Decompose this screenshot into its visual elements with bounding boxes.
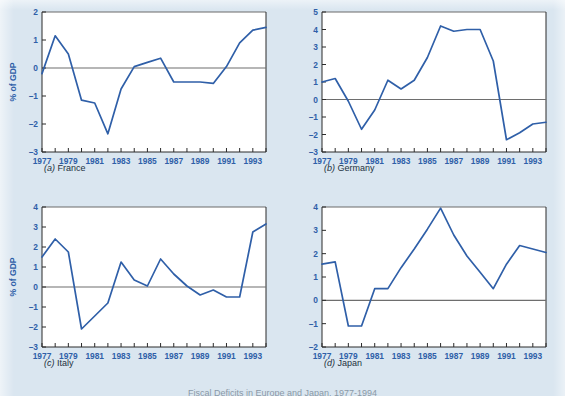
svg-text:% of GDP: % of GDP [8,257,18,296]
panel-caption-japan: (d) Japan [324,358,362,368]
chart-panel-japan: –2–1012341977197919811983198519871989199… [296,199,554,374]
panel-name-germany: Germany [338,163,375,173]
svg-text:–2: –2 [29,119,39,129]
svg-text:0: 0 [33,63,38,73]
svg-text:5: 5 [313,7,318,17]
svg-text:1987: 1987 [444,156,463,166]
svg-text:1991: 1991 [497,351,516,361]
svg-text:4: 4 [33,202,38,212]
chart-panel-france: –3–2–10121977197919811983198519871989199… [6,4,274,179]
svg-text:1981: 1981 [365,351,384,361]
svg-text:1981: 1981 [85,156,104,166]
svg-text:1989: 1989 [191,351,210,361]
svg-text:1993: 1993 [524,351,543,361]
svg-text:3: 3 [33,222,38,232]
panel-name-france: France [58,163,86,173]
svg-text:2: 2 [33,242,38,252]
svg-text:1983: 1983 [112,351,131,361]
chart-panel-germany: –3–2–10123451977197919811983198519871989… [296,4,554,179]
svg-text:1991: 1991 [217,351,236,361]
figure-caption: Fiscal Deficits in Europe and Japan, 197… [0,388,565,396]
svg-text:1985: 1985 [138,156,157,166]
svg-text:1991: 1991 [497,156,516,166]
svg-text:0: 0 [313,295,318,305]
line-chart-italy: –3–2–10123419771979198119831985198719891… [6,199,274,374]
panel-caption-france: (a) France [44,163,86,173]
svg-text:–1: –1 [29,91,39,101]
svg-text:2: 2 [313,60,318,70]
svg-text:–1: –1 [309,112,319,122]
svg-text:% of GDP: % of GDP [8,62,18,101]
svg-text:1983: 1983 [392,156,411,166]
svg-text:1: 1 [313,77,318,87]
svg-text:1987: 1987 [164,156,183,166]
svg-text:1993: 1993 [244,156,263,166]
panel-letter-japan: (d) [324,358,335,368]
svg-text:1983: 1983 [112,156,131,166]
svg-text:1991: 1991 [217,156,236,166]
svg-text:4: 4 [313,202,318,212]
svg-text:1: 1 [313,272,318,282]
svg-text:3: 3 [313,225,318,235]
svg-text:1993: 1993 [244,351,263,361]
panel-letter-italy: (c) [44,358,55,368]
svg-text:2: 2 [33,7,38,17]
figure-panel-group: –3–2–10121977197919811983198519871989199… [0,0,565,396]
svg-text:1981: 1981 [85,351,104,361]
svg-text:0: 0 [313,95,318,105]
svg-text:1985: 1985 [138,351,157,361]
panel-letter-france: (a) [44,163,55,173]
svg-text:–2: –2 [309,130,319,140]
svg-text:1989: 1989 [471,351,490,361]
svg-text:1985: 1985 [418,156,437,166]
svg-text:1989: 1989 [191,156,210,166]
line-chart-japan: –2–1012341977197919811983198519871989199… [296,199,554,374]
svg-text:–1: –1 [309,319,319,329]
svg-text:–2: –2 [29,322,39,332]
panel-caption-italy: (c) Italy [44,358,74,368]
svg-text:1993: 1993 [524,156,543,166]
svg-text:3: 3 [313,42,318,52]
svg-text:1: 1 [33,262,38,272]
svg-text:1989: 1989 [471,156,490,166]
svg-text:1987: 1987 [444,351,463,361]
svg-text:1: 1 [33,35,38,45]
line-chart-france: –3–2–10121977197919811983198519871989199… [6,4,274,179]
panel-caption-germany: (b) Germany [324,163,375,173]
svg-text:–1: –1 [29,302,39,312]
svg-text:1983: 1983 [392,351,411,361]
svg-text:1987: 1987 [164,351,183,361]
panel-name-italy: Italy [57,358,74,368]
panel-name-japan: Japan [338,358,363,368]
chart-panel-italy: –3–2–10123419771979198119831985198719891… [6,199,274,374]
svg-text:4: 4 [313,25,318,35]
svg-text:0: 0 [33,282,38,292]
svg-text:2: 2 [313,249,318,259]
panel-letter-germany: (b) [324,163,335,173]
line-chart-germany: –3–2–10123451977197919811983198519871989… [296,4,554,179]
svg-text:1985: 1985 [418,351,437,361]
